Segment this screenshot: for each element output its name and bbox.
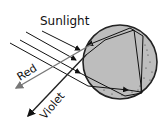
label-red: Red bbox=[15, 61, 40, 83]
label-violet: Violet bbox=[37, 89, 67, 122]
raindrop bbox=[83, 25, 157, 99]
label-sunlight: Sunlight bbox=[40, 14, 90, 28]
raindrop-diagram: Sunlight Red Violet bbox=[0, 0, 168, 123]
